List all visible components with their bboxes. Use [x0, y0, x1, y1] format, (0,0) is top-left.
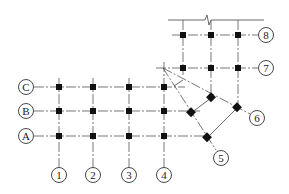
svg-text:B: B: [22, 105, 29, 117]
svg-text:7: 7: [263, 62, 269, 74]
svg-text:8: 8: [263, 29, 269, 41]
axis-bubble-6: 6: [250, 111, 265, 126]
svg-text:1: 1: [56, 169, 62, 181]
svg-text:6: 6: [254, 112, 260, 124]
axis-bubble-2: 2: [86, 168, 101, 183]
svg-text:4: 4: [161, 169, 167, 181]
svg-text:A: A: [22, 130, 30, 142]
column-axes: [59, 62, 164, 168]
svg-text:3: 3: [126, 169, 132, 181]
axis-bubble-7: 7: [259, 61, 274, 76]
axis-bubble-c: C: [19, 80, 34, 95]
svg-text:2: 2: [90, 169, 96, 181]
axis-bubble-1: 1: [52, 168, 67, 183]
svg-text:C: C: [22, 81, 29, 93]
upper-axes: [156, 20, 258, 108]
axis-bubble-b: B: [19, 104, 34, 119]
axis-bubble-5: 5: [214, 151, 229, 166]
axis-bubble-a: A: [19, 129, 34, 144]
axis-grid-diagram: C B A 1 2 3 4 8 7 6 5: [0, 0, 289, 194]
axis-bubble-3: 3: [122, 168, 137, 183]
axis-bubble-4: 4: [157, 168, 172, 183]
break-line: [168, 15, 264, 25]
svg-text:5: 5: [218, 152, 224, 164]
axis-bubble-8: 8: [259, 28, 274, 43]
